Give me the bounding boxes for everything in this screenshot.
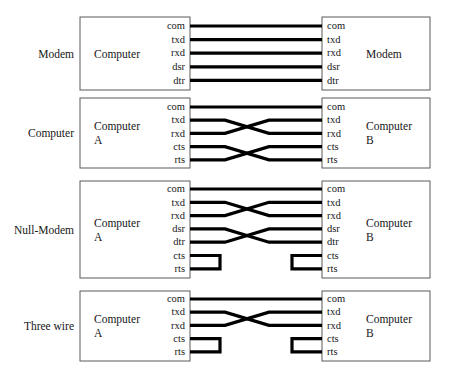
wire-txd-to-rxd (190, 120, 322, 133)
pin-label-left-dtr: dtr (173, 75, 185, 86)
left-device-label: Computer (94, 48, 140, 61)
pin-label-left-com: com (167, 20, 185, 31)
pin-label-right-rts: rts (327, 154, 338, 165)
right-device-label-line2: B (366, 134, 374, 146)
pin-label-right-dtr: dtr (327, 236, 339, 247)
right-device-label-line2: B (366, 231, 374, 243)
left-device-label-line2: A (94, 231, 103, 243)
loopback-left-cts-rts (190, 339, 220, 352)
pin-label-left-dsr: dsr (172, 223, 185, 234)
wire-dtr-to-dsr (190, 229, 322, 242)
left-device-label: Computer (94, 313, 140, 326)
pin-label-left-rxd: rxd (171, 128, 186, 139)
pin-label-right-cts: cts (327, 250, 339, 261)
right-device-label: Modem (366, 48, 402, 60)
pin-label-left-dtr: dtr (173, 236, 185, 247)
row-label: Null-Modem (14, 224, 74, 236)
serial-cable-wiring-diagram: ModemComputerModemcomtxdrxddsrdtrcomtxdr… (0, 0, 455, 375)
pin-label-right-cts: cts (327, 333, 339, 344)
left-device-label: Computer (94, 120, 140, 133)
pin-label-left-rts: rts (175, 263, 186, 274)
left-device-label: Computer (94, 217, 140, 230)
pin-label-right-txd: txd (327, 114, 341, 125)
pin-label-left-rts: rts (175, 154, 186, 165)
row-label: Three wire (24, 320, 74, 332)
wire-dsr-to-dtr (190, 229, 322, 242)
pin-label-left-rts: rts (175, 346, 186, 357)
wire-rxd-to-txd (190, 202, 322, 215)
pin-label-left-com: com (167, 101, 185, 112)
right-device-label: Computer (366, 217, 412, 230)
pin-label-right-rxd: rxd (327, 320, 342, 331)
pin-label-left-dsr: dsr (172, 61, 185, 72)
pin-label-right-txd: txd (327, 306, 341, 317)
pin-label-right-txd: txd (327, 34, 341, 45)
wire-txd-to-rxd (190, 312, 322, 325)
pin-label-right-com: com (327, 183, 345, 194)
pin-label-right-rts: rts (327, 346, 338, 357)
loopback-left-cts-rts (190, 256, 220, 269)
wiring-row-1: ModemComputerModemcomtxdrxddsrdtrcomtxdr… (38, 17, 430, 90)
pin-label-right-com: com (327, 20, 345, 31)
wire-rxd-to-txd (190, 120, 322, 133)
pin-label-right-rxd: rxd (327, 210, 342, 221)
row-label: Computer (28, 127, 74, 140)
loopback-right-cts-rts (292, 256, 322, 269)
pin-label-left-txd: txd (172, 197, 186, 208)
pin-label-right-txd: txd (327, 197, 341, 208)
right-device-label: Computer (366, 313, 412, 326)
wire-cts-to-rts (190, 147, 322, 160)
pin-label-left-txd: txd (172, 306, 186, 317)
pin-label-left-com: com (167, 183, 185, 194)
pin-label-left-rxd: rxd (171, 210, 186, 221)
row-label: Modem (38, 48, 74, 60)
right-device-label-line2: B (366, 327, 374, 339)
pin-label-left-rxd: rxd (171, 320, 186, 331)
pin-label-right-rxd: rxd (327, 128, 342, 139)
pin-label-left-cts: cts (173, 333, 185, 344)
right-device-label: Computer (366, 120, 412, 133)
pin-label-right-dsr: dsr (327, 223, 340, 234)
pin-label-left-cts: cts (173, 141, 185, 152)
pin-label-right-dsr: dsr (327, 61, 340, 72)
pin-label-right-rxd: rxd (327, 47, 342, 58)
loopback-right-cts-rts (292, 339, 322, 352)
wiring-row-3: Null-ModemComputerAComputerBcomtxdrxddsr… (14, 181, 430, 278)
wiring-row-2: ComputerComputerAComputerBcomtxdrxdctsrt… (28, 98, 430, 168)
pin-label-right-com: com (327, 293, 345, 304)
wire-txd-to-rxd (190, 202, 322, 215)
pin-label-left-txd: txd (172, 114, 186, 125)
left-device-label-line2: A (94, 327, 103, 339)
pin-label-left-txd: txd (172, 34, 186, 45)
wiring-row-4: Three wireComputerAComputerBcomtxdrxdcts… (24, 291, 430, 361)
pin-label-right-cts: cts (327, 141, 339, 152)
pin-label-right-dtr: dtr (327, 75, 339, 86)
pin-label-right-com: com (327, 101, 345, 112)
wire-rts-to-cts (190, 147, 322, 160)
pin-label-left-rxd: rxd (171, 47, 186, 58)
pin-label-left-com: com (167, 293, 185, 304)
left-device-label-line2: A (94, 134, 103, 146)
wire-rxd-to-txd (190, 312, 322, 325)
pin-label-left-cts: cts (173, 250, 185, 261)
pin-label-right-rts: rts (327, 263, 338, 274)
